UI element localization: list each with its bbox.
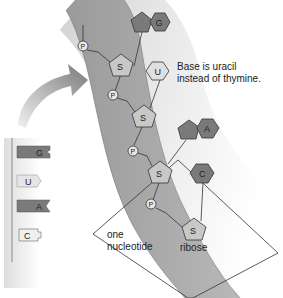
svg-text:ribose: ribose — [180, 242, 208, 253]
phosphate-2: P — [108, 90, 118, 100]
svg-text:A: A — [204, 124, 210, 134]
svg-text:P: P — [131, 148, 136, 155]
svg-text:G: G — [156, 18, 163, 28]
phosphate-3: P — [128, 146, 138, 156]
svg-text:nucleotide: nucleotide — [107, 241, 153, 252]
side-base-g: G — [17, 146, 50, 158]
svg-text:U: U — [155, 67, 162, 77]
svg-text:S: S — [140, 113, 146, 123]
svg-text:instead of thymine.: instead of thymine. — [177, 73, 261, 84]
svg-text:C: C — [24, 231, 31, 241]
svg-text:one: one — [107, 229, 124, 240]
phosphate-4: P — [146, 199, 156, 209]
side-base-u: U — [17, 175, 41, 187]
svg-text:Base is uracil: Base is uracil — [177, 61, 236, 72]
svg-text:G: G — [36, 148, 43, 158]
svg-text:P: P — [81, 43, 86, 50]
phosphate-1: P — [78, 41, 88, 51]
svg-text:U: U — [25, 177, 32, 187]
side-base-c: C — [19, 229, 41, 241]
svg-text:S: S — [156, 169, 162, 179]
curved-arrow-icon — [18, 64, 88, 128]
uracil-annotation: Base is uracil instead of thymine. — [177, 61, 261, 84]
svg-text:P: P — [149, 201, 154, 208]
svg-text:S: S — [190, 226, 196, 236]
side-base-a: A — [17, 200, 50, 212]
svg-text:S: S — [117, 62, 123, 72]
side-strand: G U A C — [4, 138, 50, 288]
svg-text:P: P — [111, 92, 116, 99]
svg-text:C: C — [199, 169, 206, 179]
svg-text:A: A — [36, 202, 42, 212]
rna-diagram: G U A C one nucleotide ribose — [0, 0, 283, 298]
